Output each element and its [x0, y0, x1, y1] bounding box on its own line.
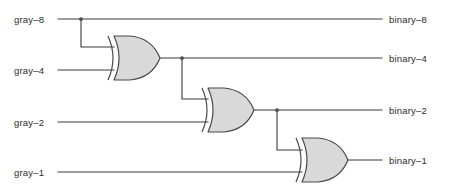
output-label-binary-8: binary–8: [389, 14, 427, 25]
output-label-binary-4: binary–4: [389, 53, 427, 64]
xor-gate-3[interactable]: [296, 138, 348, 182]
wire-gray8-branch-to-xor1: [81, 19, 114, 47]
xor-gate-3-back-arc: [296, 138, 301, 182]
input-label-gray-2: gray–2: [14, 117, 44, 128]
xor-gate-2-body: [208, 88, 254, 132]
xor-gate-1-body: [114, 36, 160, 80]
circuit-schematic: gray–8 gray–4 gray–2 gray–1 binary–8 bin…: [0, 0, 449, 192]
input-label-gray-1: gray–1: [14, 167, 44, 178]
xor-gate-3-body: [302, 138, 348, 182]
output-label-binary-2: binary–2: [389, 105, 427, 116]
xor-gate-1[interactable]: [108, 36, 160, 80]
xor-gate-2-back-arc: [202, 88, 207, 132]
output-label-binary-1: binary–1: [389, 155, 427, 166]
input-label-gray-4: gray–4: [14, 65, 44, 76]
input-label-gray-8: gray–8: [14, 14, 44, 25]
xor-gate-1-back-arc: [108, 36, 113, 80]
xor-gate-2[interactable]: [202, 88, 254, 132]
gray-to-binary-circuit-diagram: gray–8 gray–4 gray–2 gray–1 binary–8 bin…: [0, 0, 449, 192]
